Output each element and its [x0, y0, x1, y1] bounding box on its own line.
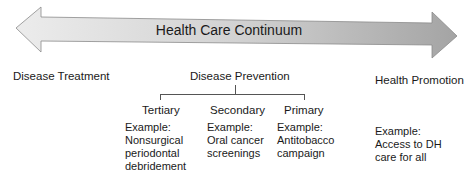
label-disease-treatment: Disease Treatment	[13, 70, 110, 82]
label-disease-prevention: Disease Prevention	[190, 70, 290, 82]
diagram-title: Health Care Continuum	[0, 22, 458, 38]
example-text: Antitobacco campaign	[277, 134, 341, 160]
example-text: Access to DH care for all	[375, 138, 445, 164]
connector-tick-primary	[304, 94, 305, 100]
example-label: Example:	[207, 121, 269, 134]
example-text: Nonsurgical periodontal debridement	[125, 134, 200, 173]
level-primary: Primary	[284, 104, 324, 116]
example-label: Example:	[375, 125, 445, 138]
example-label: Example:	[125, 121, 200, 134]
example-text: Oral cancer screenings	[207, 134, 269, 160]
label-health-promotion: Health Promotion	[375, 74, 464, 86]
example-health-promotion: Example: Access to DH care for all	[375, 125, 445, 164]
connector-bar	[160, 94, 305, 95]
example-label: Example:	[277, 121, 341, 134]
example-primary: Example: Antitobacco campaign	[277, 121, 341, 160]
connector-tick-tertiary	[160, 94, 161, 100]
example-secondary: Example: Oral cancer screenings	[207, 121, 269, 160]
example-tertiary: Example: Nonsurgical periodontal debride…	[125, 121, 200, 173]
level-tertiary: Tertiary	[142, 104, 180, 116]
level-secondary: Secondary	[210, 104, 265, 116]
